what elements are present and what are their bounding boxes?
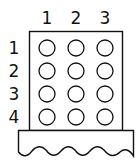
column-label-2: 2 — [71, 10, 82, 27]
hole-r2-c2 — [68, 63, 84, 79]
column-label-3: 3 — [100, 10, 111, 27]
hole-r1-c1 — [39, 40, 55, 56]
hole-r3-c3 — [97, 86, 113, 102]
column-label-1: 1 — [42, 10, 53, 27]
hole-r1-c3 — [97, 40, 113, 56]
hole-r3-c1 — [39, 86, 55, 102]
hole-r1-c2 — [68, 40, 84, 56]
hole-r4-c1 — [39, 109, 55, 125]
hole-r4-c2 — [68, 109, 84, 125]
row-label-4: 4 — [9, 109, 20, 126]
hole-r4-c3 — [97, 109, 113, 125]
board-base — [19, 131, 134, 157]
row-label-1: 1 — [9, 40, 20, 57]
hole-r3-c2 — [68, 86, 84, 102]
row-label-3: 3 — [9, 86, 20, 103]
hole-grid — [39, 40, 113, 125]
row-label-2: 2 — [9, 63, 20, 80]
hole-r2-c1 — [39, 63, 55, 79]
hole-r2-c3 — [97, 63, 113, 79]
